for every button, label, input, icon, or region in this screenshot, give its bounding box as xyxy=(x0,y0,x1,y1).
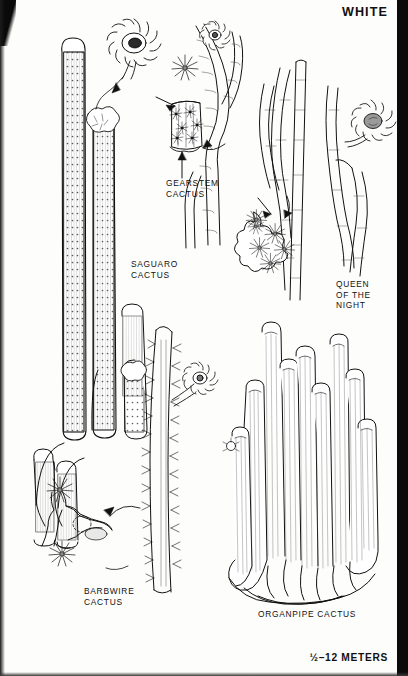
queen-of-the-night-illustration xyxy=(234,60,396,300)
label-gearstem-cactus: GEARSTEM CACTUS xyxy=(166,178,219,199)
saguaro-illustration xyxy=(34,19,161,548)
scan-edge-right xyxy=(397,0,408,676)
plate-artwork xyxy=(0,0,408,676)
scan-edge-left xyxy=(0,0,5,676)
label-organpipe-cactus: ORGANPIPE CACTUS xyxy=(258,609,356,620)
scan-edge-bottom xyxy=(0,672,408,676)
page-title: WHITE xyxy=(342,5,388,19)
scale-note: ½–12 METERS xyxy=(310,652,388,663)
label-queen-of-the-night: QUEEN OF THE NIGHT xyxy=(336,279,371,311)
illustration-page: WHITE GEARSTEM CACTUS SAGUARO CACTUS QUE… xyxy=(0,0,408,676)
label-saguaro-cactus: SAGUARO CACTUS xyxy=(131,259,178,280)
label-barbwire-cactus: BARBWIRE CACTUS xyxy=(84,586,134,607)
gearstem-illustration xyxy=(156,21,243,248)
organpipe-illustration xyxy=(223,322,378,604)
